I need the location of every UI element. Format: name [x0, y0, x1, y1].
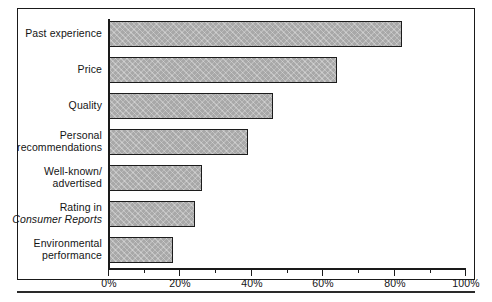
bar-personal-recommendations [109, 129, 248, 155]
chart-page: Past experience Price Quality [0, 0, 492, 302]
bar-rating-consumer-reports [109, 201, 195, 227]
x-tick-major [179, 269, 180, 276]
category-label-line1: Personal [60, 129, 102, 141]
category-label: Well-known/ advertised [0, 166, 102, 189]
x-tick-label: 80% [373, 277, 417, 289]
category-label-line2: advertised [0, 178, 102, 190]
x-tick-major [108, 269, 109, 276]
x-tick-label: 60% [301, 277, 345, 289]
x-tick-major [394, 269, 395, 276]
category-label: Quality [0, 100, 102, 112]
category-label: Past experience [0, 28, 102, 40]
category-label-line1: Past experience [25, 27, 102, 39]
x-tick-major [251, 269, 252, 276]
x-tick-major [465, 269, 466, 276]
category-label: Rating in Consumer Reports [0, 202, 102, 225]
category-label-line2: recommendations [0, 142, 102, 154]
category-label-line1: Environmental [34, 237, 102, 249]
x-tick-label: 20% [158, 277, 202, 289]
x-tick-minor [287, 269, 288, 273]
category-label: Environmental performance [0, 238, 102, 261]
bar-price [109, 57, 337, 83]
category-label-line1: Quality [69, 99, 102, 111]
bar-row: Price [18, 57, 474, 83]
bar-row: Quality [18, 93, 474, 119]
category-label: Personal recommendations [0, 130, 102, 153]
x-tick-minor [358, 269, 359, 273]
bar-row: Rating in Consumer Reports [18, 201, 474, 227]
x-tick-label: 0% [87, 277, 131, 289]
y-axis-line [108, 19, 110, 269]
x-tick-major [322, 269, 323, 276]
x-tick-minor [430, 269, 431, 273]
x-tick-label: 40% [230, 277, 274, 289]
x-tick-minor [215, 269, 216, 273]
bar-past-experience [109, 21, 402, 47]
category-label-line2-italic: Consumer Reports [0, 214, 102, 226]
bar-row: Personal recommendations [18, 129, 474, 155]
bar-well-known-advertised [109, 165, 202, 191]
bar-environmental-performance [109, 237, 173, 263]
category-label-line1: Price [78, 63, 102, 75]
category-label-line1: Rating in [60, 201, 102, 213]
category-label-line2: performance [0, 250, 102, 262]
x-tick-minor [144, 269, 145, 273]
x-tick-label: 100% [444, 277, 488, 289]
chart-frame: Past experience Price Quality [17, 8, 475, 280]
bar-row: Well-known/ advertised [18, 165, 474, 191]
category-label-line1: Well-known/ [44, 165, 102, 177]
bar-quality [109, 93, 273, 119]
bar-row: Past experience [18, 21, 474, 47]
footer-separator-rule [17, 291, 475, 293]
category-label: Price [0, 64, 102, 76]
bar-row: Environmental performance [18, 237, 474, 263]
plot-area: Past experience Price Quality [18, 9, 474, 279]
